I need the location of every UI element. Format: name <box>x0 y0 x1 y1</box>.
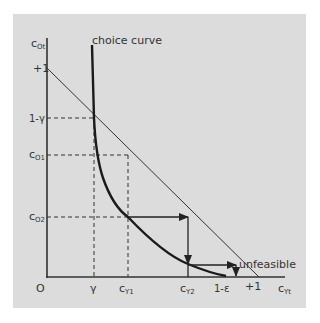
iteration-arrows <box>128 217 236 277</box>
y-tick-c-o2: cO2 <box>29 210 45 224</box>
x-axis-title: cYt <box>278 282 291 296</box>
choice-curve <box>92 45 226 276</box>
y-tick-one-minus-gamma: 1-γ <box>29 113 45 124</box>
y-tick-plus-one: +1 <box>33 62 49 75</box>
y-axis-title: cOt <box>31 37 46 51</box>
x-tick-gamma: γ <box>90 282 97 295</box>
x-tick-one-minus-epsilon: 1-ε <box>214 283 229 294</box>
x-tick-c-y1: cY1 <box>119 282 134 296</box>
dashed-guides <box>47 118 128 277</box>
origin-label: O <box>36 282 45 295</box>
unfeasible-label: unfeasible <box>239 258 296 271</box>
budget-line <box>47 68 259 277</box>
x-tick-c-y2: cY2 <box>180 282 195 296</box>
choice-curve-diagram: cOt +1 1-γ cO1 cO2 O γ cY1 cY2 1-ε +1 cY… <box>0 0 320 323</box>
choice-curve-label: choice curve <box>92 34 162 47</box>
x-tick-plus-one: +1 <box>245 280 261 293</box>
y-tick-c-o1: cO1 <box>29 148 45 162</box>
